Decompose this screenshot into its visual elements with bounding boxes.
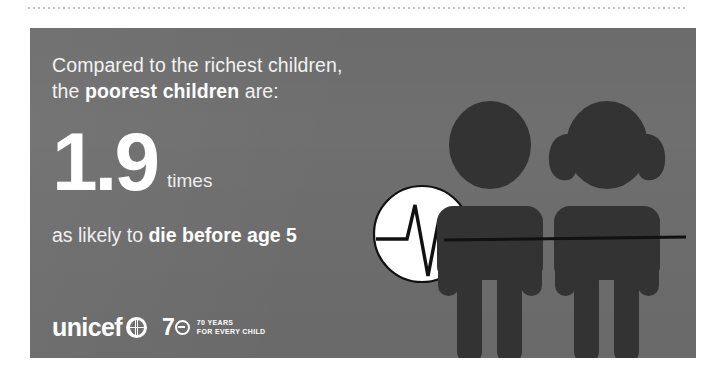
headline-line-2-suffix: are: (239, 80, 279, 102)
scan-artifact-dotted-line (28, 7, 688, 9)
infographic-page: Compared to the richest children, the po… (0, 0, 725, 371)
anniversary-lockup: 7 70 YEARS FOR EVERY CHILD (162, 316, 265, 339)
statistic-value: 1.9 (52, 128, 157, 196)
tagline-prefix: as likely to (52, 224, 148, 246)
headline-line-1: Compared to the richest children, (52, 52, 412, 78)
logo-lockup: unicef 7 70 YEARS FOR EVERY CHILD (52, 315, 265, 340)
anniversary-caption-line-1: 70 YEARS (197, 319, 266, 328)
headline: Compared to the richest children, the po… (52, 52, 412, 104)
unicef-infographic-card: Compared to the richest children, the po… (30, 28, 696, 358)
un-globe-emblem-icon (126, 317, 147, 338)
child-figure-girl (549, 101, 665, 358)
anniversary-number: 7 (162, 316, 190, 339)
statistic-unit: times (167, 171, 212, 190)
statistic-row: 1.9 times (52, 128, 412, 196)
globe-shape (130, 320, 144, 335)
anniversary-caption-line-2: FOR EVERY CHILD (197, 328, 266, 337)
headline-line-2-emphasis: poorest children (85, 80, 239, 102)
anniversary-zero-icon (175, 320, 190, 335)
child-figure-boy (437, 101, 543, 358)
text-column: Compared to the richest children, the po… (52, 52, 412, 247)
headline-line-2: the poorest children are: (52, 78, 412, 104)
anniversary-caption: 70 YEARS FOR EVERY CHILD (197, 319, 266, 336)
tagline: as likely to die before age 5 (52, 223, 412, 247)
tagline-emphasis: die before age 5 (148, 224, 296, 246)
unicef-wordmark: unicef (52, 315, 122, 340)
headline-line-2-prefix: the (52, 80, 85, 102)
